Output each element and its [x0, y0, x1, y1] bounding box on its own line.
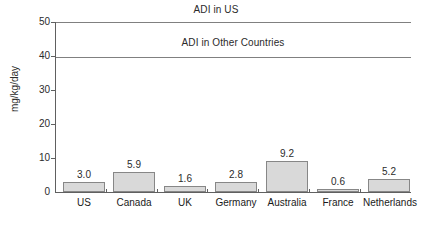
bar-canada: [113, 172, 155, 192]
reference-line-adi-us: [55, 22, 411, 23]
category-label-france: France: [314, 197, 362, 208]
bar-value-france: 0.6: [317, 177, 359, 187]
x-separator-tick-2: [157, 189, 158, 193]
y-tick-mark-10: [51, 158, 55, 159]
reference-line-adi-other-countries: [55, 57, 411, 58]
y-tick-label-50: 50: [28, 17, 50, 27]
bar-uk: [164, 186, 206, 192]
y-tick-mark-50: [51, 22, 55, 23]
bar-netherlands: [368, 179, 410, 192]
y-tick-label-30: 30: [28, 85, 50, 95]
y-tick-10: 10: [28, 153, 50, 163]
category-label-australia: Australia: [261, 197, 313, 208]
x-separator-tick-3: [207, 189, 208, 193]
bar-value-australia: 9.2: [266, 149, 308, 159]
x-separator-tick-6: [360, 189, 361, 193]
y-tick-20: 20: [28, 119, 50, 129]
y-tick-label-40: 40: [28, 51, 50, 61]
category-label-us: US: [63, 197, 105, 208]
x-separator-tick-5: [309, 189, 310, 193]
x-axis-line: [55, 192, 411, 193]
annotation-adi-other-countries: ADI in Other Countries: [55, 37, 411, 48]
bar-value-germany: 2.8: [215, 170, 257, 180]
x-separator-tick-4: [258, 189, 259, 193]
y-axis-line: [55, 22, 56, 193]
x-separator-tick-1: [106, 189, 107, 193]
bar-us: [63, 182, 105, 192]
y-tick-label-10: 10: [28, 153, 50, 163]
y-tick-mark-20: [51, 124, 55, 125]
y-axis-title: mg/kg/day: [10, 54, 20, 124]
y-tick-mark-40: [51, 56, 55, 57]
y-tick-50: 50: [28, 17, 50, 27]
y-tick-label-0: 0: [28, 187, 50, 197]
bar-value-netherlands: 5.2: [368, 167, 410, 177]
bar-chart: ADI in US ADI in Other Countries mg/kg/d…: [0, 0, 432, 232]
category-label-netherlands: Netherlands: [358, 197, 422, 208]
bar-france: [317, 189, 359, 192]
bar-australia: [266, 161, 308, 192]
y-tick-30: 30: [28, 85, 50, 95]
bar-germany: [215, 182, 257, 192]
bar-value-us: 3.0: [63, 170, 105, 180]
y-tick-0: 0: [28, 187, 50, 197]
category-label-germany: Germany: [211, 197, 261, 208]
y-tick-mark-30: [51, 90, 55, 91]
y-tick-40: 40: [28, 51, 50, 61]
category-label-uk: UK: [164, 197, 206, 208]
category-label-canada: Canada: [110, 197, 158, 208]
bar-value-canada: 5.9: [113, 160, 155, 170]
annotation-adi-in-us: ADI in US: [0, 4, 432, 15]
bar-value-uk: 1.6: [164, 174, 206, 184]
y-tick-label-20: 20: [28, 119, 50, 129]
